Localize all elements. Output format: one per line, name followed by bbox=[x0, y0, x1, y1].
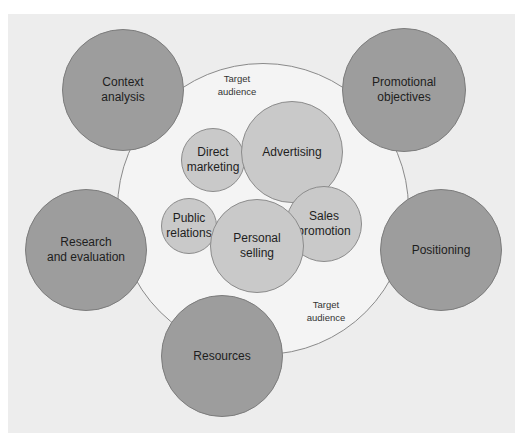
element-label: Research and evaluation bbox=[47, 235, 125, 265]
element-resources: Resources bbox=[161, 295, 283, 417]
target-audience-label-bottom: Target audience bbox=[296, 299, 356, 325]
element-context-analysis: Context analysis bbox=[62, 29, 184, 151]
element-label: Resources bbox=[193, 349, 250, 364]
tool-label: Direct marketing bbox=[187, 145, 240, 175]
tool-label: Sales promotion bbox=[297, 209, 350, 239]
tool-personal-selling: Personal selling bbox=[210, 199, 304, 293]
element-label: Positioning bbox=[412, 243, 471, 258]
tool-label: Personal selling bbox=[233, 231, 280, 261]
tool-label: Advertising bbox=[262, 145, 321, 160]
tool-direct-marketing: Direct marketing bbox=[181, 128, 245, 192]
element-label: Promotional objectives bbox=[372, 75, 436, 105]
element-label: Context analysis bbox=[101, 75, 144, 105]
promotion-framework-diagram: Target audience Target audience Direct m… bbox=[0, 0, 527, 443]
element-promotional-objectives: Promotional objectives bbox=[342, 28, 466, 152]
element-research-and-evaluation: Research and evaluation bbox=[25, 189, 147, 311]
tool-label: Public relations bbox=[166, 211, 211, 241]
element-positioning: Positioning bbox=[380, 189, 502, 311]
target-audience-label-top: Target audience bbox=[207, 73, 267, 99]
tool-public-relations: Public relations bbox=[161, 198, 217, 254]
